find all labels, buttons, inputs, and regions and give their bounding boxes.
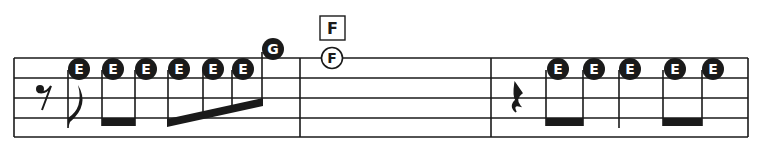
svg-text:E: E — [553, 61, 563, 77]
note-head: E — [202, 58, 224, 80]
svg-text:E: E — [625, 61, 635, 77]
svg-text:E: E — [74, 61, 84, 77]
svg-text:F: F — [327, 50, 337, 66]
note-head: E — [102, 58, 124, 80]
svg-text:E: E — [670, 61, 680, 77]
svg-text:E: E — [238, 61, 248, 77]
beam — [167, 98, 263, 127]
note-head: E — [702, 58, 724, 80]
svg-text:F: F — [327, 19, 338, 38]
beam — [663, 118, 702, 126]
note-head: E — [664, 58, 686, 80]
note-head: G — [262, 38, 284, 60]
note-head: E — [547, 58, 569, 80]
flag-icon — [68, 85, 83, 128]
music-staff: E E E E E E G F F E E E E E — [0, 0, 760, 151]
measure-1: E E E E E E G — [36, 38, 284, 128]
svg-text:E: E — [108, 61, 118, 77]
chord-box: F — [320, 16, 345, 40]
svg-text:E: E — [141, 61, 151, 77]
whole-note-head: F — [322, 48, 343, 69]
beam — [546, 118, 583, 126]
note-head: E — [583, 58, 605, 80]
note-head: E — [619, 58, 641, 80]
note-head: E — [135, 58, 157, 80]
note-head: E — [232, 58, 254, 80]
measure-2: F F — [320, 16, 345, 69]
svg-text:G: G — [267, 41, 279, 57]
beam — [102, 118, 135, 126]
svg-text:E: E — [174, 61, 184, 77]
svg-text:E: E — [708, 61, 718, 77]
svg-text:E: E — [208, 61, 218, 77]
note-head: E — [68, 58, 90, 80]
note-head: E — [168, 58, 190, 80]
svg-text:E: E — [589, 61, 599, 77]
